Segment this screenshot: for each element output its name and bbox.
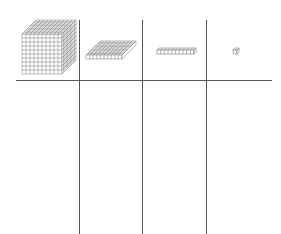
column-divider-3: [206, 20, 207, 234]
ten-rod-icon: [156, 46, 198, 56]
thousand-cube-icon: [20, 18, 78, 76]
column-divider-1: [79, 20, 80, 234]
place-value-chart: [0, 0, 281, 234]
header-divider: [16, 80, 272, 81]
hundred-flat-icon: [84, 38, 138, 62]
unit-cube-icon: [232, 47, 240, 55]
column-divider-2: [142, 20, 143, 234]
